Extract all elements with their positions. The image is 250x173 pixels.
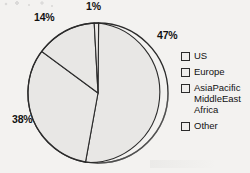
legend-swatch-icon — [181, 68, 190, 77]
pie-chart-figure: 1% 14% 47% 38% US Europe AsiaPacific Mid… — [0, 0, 250, 173]
legend-swatch-icon — [181, 84, 190, 93]
legend-label: Europe — [194, 66, 225, 77]
legend-label: US — [194, 50, 207, 61]
legend-swatch-icon — [181, 52, 190, 61]
legend-swatch-icon — [181, 122, 190, 131]
legend-label: AsiaPacific MiddleEast Africa — [194, 82, 241, 115]
legend-item-europe[interactable]: Europe — [181, 66, 249, 77]
slice-label-asiapacific: 14% — [34, 11, 54, 23]
legend-item-other[interactable]: Other — [181, 120, 249, 131]
legend-label: Other — [194, 120, 218, 131]
slice-label-other: 1% — [86, 0, 101, 12]
slice-label-us: 47% — [157, 29, 177, 41]
legend-item-us[interactable]: US — [181, 50, 249, 61]
chart-legend: US Europe AsiaPacific MiddleEast Africa … — [181, 50, 249, 136]
legend-item-asiapacific[interactable]: AsiaPacific MiddleEast Africa — [181, 82, 249, 115]
slice-label-europe: 38% — [12, 113, 32, 125]
